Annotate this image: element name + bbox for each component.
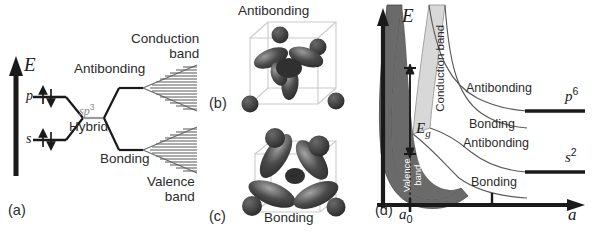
antibonding-label-a: Antibonding: [74, 62, 145, 77]
hybrid-label: Hybrid: [69, 120, 108, 135]
panel-a: E p s sp3 Hybrid Antibonding Bonding Con…: [0, 0, 200, 234]
s2-exponent: 2: [571, 146, 577, 158]
panel-c-title: Bonding: [264, 211, 314, 226]
eg-base: E: [416, 120, 425, 136]
figure-root: E p s sp3 Hybrid Antibonding Bonding Con…: [0, 0, 597, 234]
hybrid-split-lines: [104, 88, 143, 150]
valence-band-fan: [143, 127, 197, 173]
curve-label-antibonding-lower: Antibonding: [463, 137, 529, 151]
curve-label-bonding-lower: Bonding: [471, 176, 517, 190]
sp3-hybrid-label: sp3: [79, 103, 94, 118]
panel-d-energy-axis-label: E: [402, 6, 414, 27]
valence-band-label-a: Valence band: [147, 175, 195, 205]
conduction-band-label-d: Conduction band: [434, 13, 447, 123]
curve-label-antibonding-upper: Antibonding: [466, 82, 532, 96]
central-atom-b: [276, 58, 302, 78]
sp3-exponent: 3: [90, 102, 95, 112]
conduction-band-label-a-line2: band: [131, 47, 199, 62]
panel-d: E a a0 Eg Conduction band Valence band A…: [375, 0, 597, 234]
energy-axis-arrow: [9, 56, 23, 176]
central-atom-c: [285, 168, 305, 184]
p6-level-label: p6: [565, 86, 578, 105]
valence-band-label-d-line2: band: [413, 146, 423, 204]
conduction-band-label-a-line1: Conduction: [131, 32, 199, 47]
bonding-label-a: Bonding: [100, 152, 150, 167]
panel-b-tag: (b): [209, 96, 227, 112]
p6-base: p: [565, 88, 573, 104]
p-level-label: p: [26, 88, 33, 103]
s-level-label: s: [26, 131, 31, 146]
s2-level-label: s2: [565, 147, 577, 166]
curve-label-bonding-upper: Bonding: [469, 118, 515, 132]
panel-b: Antibonding: [200, 0, 375, 118]
band-gap-label: Eg: [416, 120, 431, 139]
conduction-band-label-a: Conduction band: [131, 32, 199, 62]
valence-band-label-a-line2: band: [147, 190, 195, 205]
valence-band-label-a-line1: Valence: [147, 175, 195, 190]
sp3-base: sp: [79, 104, 90, 118]
a0-subscript: 0: [407, 213, 413, 225]
panel-c: (c) Bonding: [200, 116, 375, 234]
panel-c-tag: (c): [209, 209, 226, 225]
valence-band-label-d-line1: Valence: [402, 146, 412, 204]
a0-base: a: [399, 206, 407, 222]
panel-d-tag: (d): [375, 203, 393, 219]
conduction-band-fan: [143, 65, 197, 111]
panel-a-energy-axis-label: E: [24, 55, 36, 76]
p6-exponent: 6: [573, 85, 579, 97]
panel-a-tag: (a): [8, 203, 26, 219]
eg-subscript: g: [425, 127, 431, 139]
x-tick-a0-label: a0: [399, 206, 413, 225]
panel-b-title: Antibonding: [238, 4, 309, 19]
panel-d-x-axis-label: a: [568, 206, 577, 225]
